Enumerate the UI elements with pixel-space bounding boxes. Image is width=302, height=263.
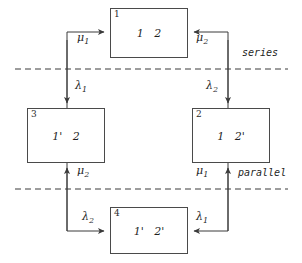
edge-label-lambda-1-left: λ1 [75,80,87,95]
edge-label-lambda-2-bottom: λ2 [82,211,94,226]
state-node-2-contents: 1 2' [193,129,269,142]
edge-label-symbol: λ [196,210,203,223]
state-node-1[interactable]: 1 1 2 [110,8,188,58]
edge-label-subscript: 1 [82,85,87,94]
state-node-3-id: 3 [31,109,37,120]
edge-label-subscript: 1 [203,170,208,179]
state-node-1-contents: 1 2 [111,27,187,40]
state-node-4-id: 4 [114,208,120,219]
state-node-3[interactable]: 3 1' 2 [27,108,105,163]
edge-label-symbol: λ [75,79,82,92]
state-node-1-id: 1 [114,9,120,20]
edge-label-subscript: 1 [84,37,89,46]
edge-label-symbol: λ [206,79,213,92]
edge-label-symbol: λ [82,210,89,223]
state-transition-diagram: 1 1 2 3 1' 2 2 1 2' 4 1' 2' μ1 μ2 λ1 λ2 … [0,0,302,263]
state-node-2[interactable]: 2 1 2' [192,108,270,163]
edge-label-lambda-1-bottom: λ1 [196,211,208,226]
state-node-2-id: 2 [196,109,202,120]
edge-label-lambda-2-right: λ2 [206,80,218,95]
edge-label-subscript: 2 [213,85,218,94]
edge-label-mu-2-top-right: μ2 [196,32,208,47]
edge-label-mu-2-bottom-left: μ2 [77,165,89,180]
edge-label-subscript: 2 [203,37,208,46]
edge-label-mu-1-bottom-right: μ1 [196,165,208,180]
state-node-4[interactable]: 4 1' 2' [110,207,188,254]
edge-label-mu-1-top-left: μ1 [77,32,89,47]
state-node-3-contents: 1' 2 [28,129,104,142]
state-node-4-contents: 1' 2' [111,224,187,237]
edge-label-subscript: 1 [203,216,208,225]
region-label-series: series [242,47,278,58]
region-label-parallel: parallel [238,167,286,178]
edge-label-subscript: 2 [89,216,94,225]
edge-label-subscript: 2 [84,170,89,179]
